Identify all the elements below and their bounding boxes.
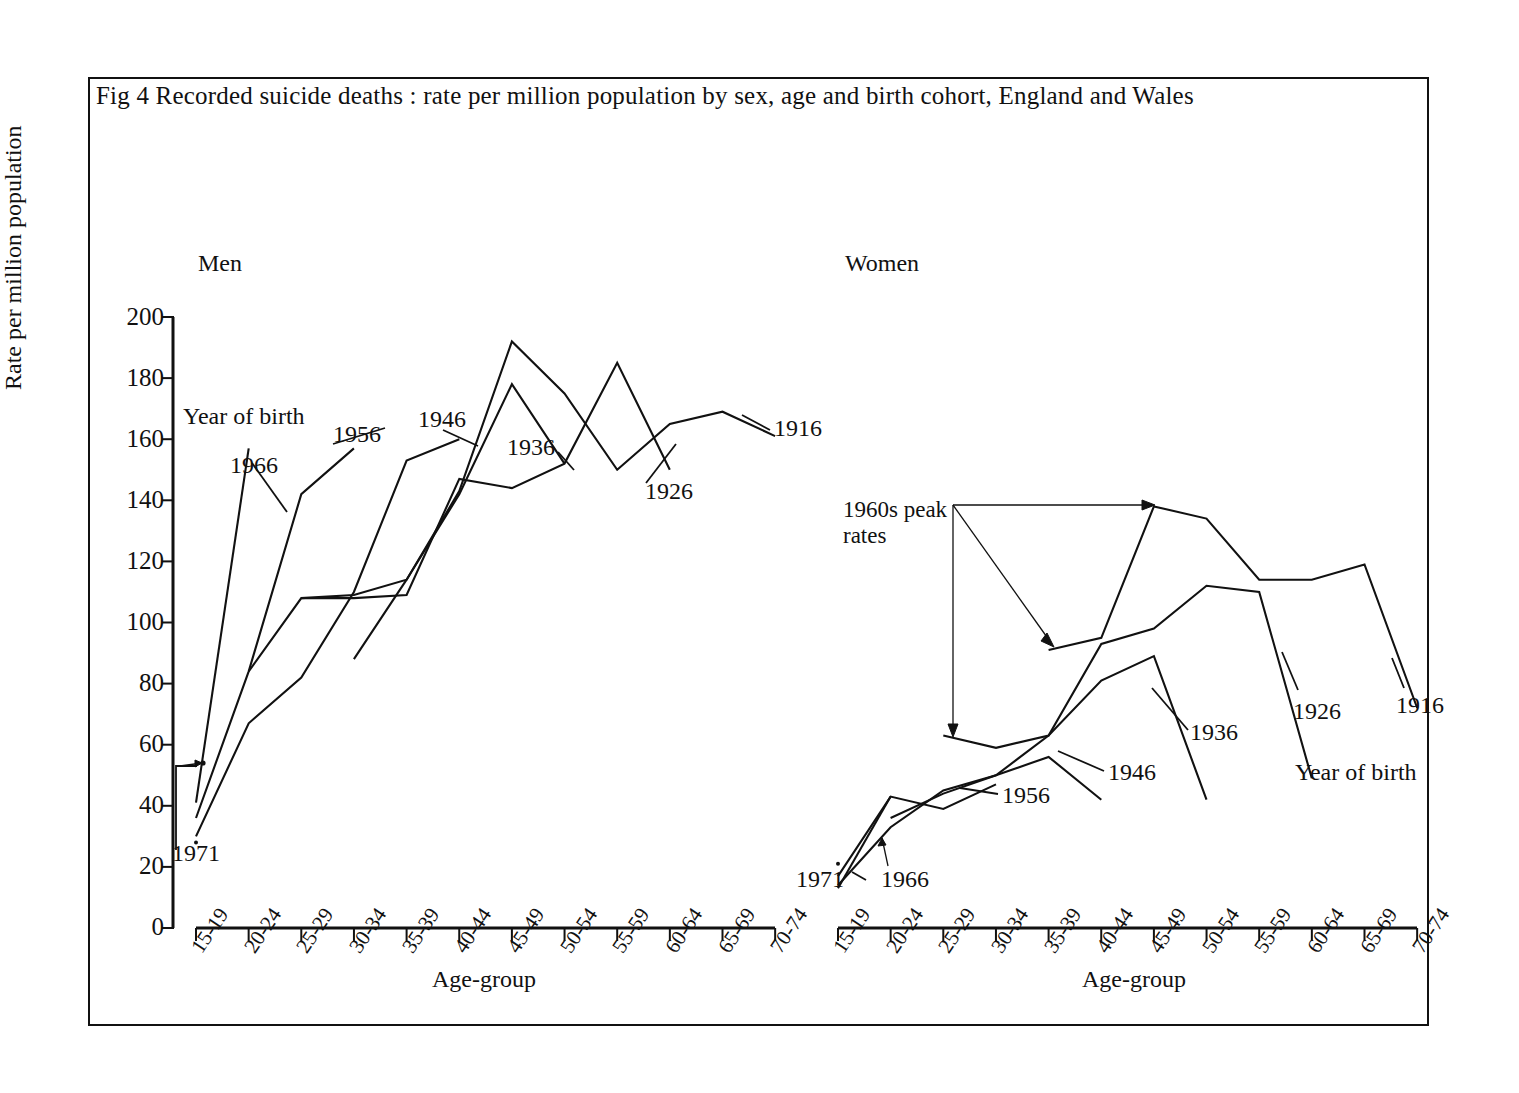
y-tick-80: 80 (104, 669, 164, 697)
cohort-label-men-1966: 1966 (230, 452, 278, 479)
x-axis-label-women: Age-group (1082, 966, 1186, 993)
y-tick-20: 20 (104, 852, 164, 880)
cohort-label-men-1926: 1926 (645, 478, 693, 505)
x-axis-label-men: Age-group (432, 966, 536, 993)
figure-title: Fig 4 Recorded suicide deaths : rate per… (96, 82, 1194, 110)
cohort-label-men-1936: 1936 (507, 434, 555, 461)
y-tick-40: 40 (104, 791, 164, 819)
year-of-birth-caption-women: Year of birth (1295, 759, 1417, 786)
cohort-label-women-1926: 1926 (1293, 698, 1341, 725)
cohort-label-men-1916: 1916 (774, 415, 822, 442)
annotation-1960s-peak-rates: 1960s peak rates (843, 497, 947, 549)
y-axis-label: Rate per million population (0, 358, 27, 390)
y-tick-100: 100 (104, 608, 164, 636)
cohort-label-men-1946: 1946 (418, 406, 466, 433)
panel-title-women: Women (845, 250, 919, 277)
cohort-label-women-1936: 1936 (1190, 719, 1238, 746)
panel-title-men: Men (198, 250, 242, 277)
cohort-label-women-1956: 1956 (1002, 782, 1050, 809)
y-tick-120: 120 (104, 547, 164, 575)
cohort-label-women-1916: 1916 (1396, 692, 1444, 719)
y-tick-160: 160 (104, 425, 164, 453)
cohort-label-women-1946: 1946 (1108, 759, 1156, 786)
y-tick-200: 200 (104, 303, 164, 331)
y-tick-180: 180 (104, 364, 164, 392)
cohort-label-women-1966: 1966 (881, 866, 929, 893)
y-tick-0: 0 (104, 913, 164, 941)
y-tick-140: 140 (104, 486, 164, 514)
cohort-label-men-1956: 1956 (333, 421, 381, 448)
year-of-birth-caption-men: Year of birth (183, 403, 305, 430)
cohort-label-women-1971: 1971 (796, 866, 844, 893)
y-tick-60: 60 (104, 730, 164, 758)
figure-frame (88, 77, 1429, 1026)
cohort-label-men-1971: 1971 (172, 840, 220, 867)
